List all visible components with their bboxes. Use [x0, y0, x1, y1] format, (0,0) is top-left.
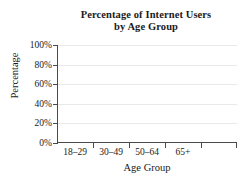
x-tick-label-65-plus: 65+ — [165, 147, 201, 158]
gridline-80 — [57, 65, 237, 66]
y-tick-label-20: 20% — [6, 118, 52, 128]
chart-title-line-1: Percentage of Internet Users — [52, 9, 240, 21]
gridline-20 — [57, 123, 237, 124]
y-tick-mark-40 — [53, 104, 58, 105]
x-tick-label-30-49: 30–49 — [93, 147, 129, 158]
y-tick-mark-80 — [53, 65, 58, 66]
y-tick-label-40: 40% — [6, 99, 52, 109]
y-tick-label-100: 100% — [6, 40, 52, 50]
x-axis-tick-labels: 18–29 30–49 50–64 65+ — [57, 147, 237, 160]
y-tick-mark-0 — [53, 143, 58, 144]
x-tick-label-18-29: 18–29 — [57, 147, 93, 158]
gridline-60 — [57, 84, 237, 85]
y-tick-label-80: 80% — [6, 60, 52, 70]
gridline-100 — [57, 45, 237, 46]
y-tick-mark-60 — [53, 84, 58, 85]
axis-frame — [57, 45, 237, 143]
y-axis-tick-labels: 100% 80% 60% 40% 20% 0% — [0, 45, 52, 143]
chart-title: Percentage of Internet Users by Age Grou… — [52, 9, 240, 32]
chart-title-line-2: by Age Group — [52, 21, 240, 33]
y-tick-label-60: 60% — [6, 79, 52, 89]
gridline-40 — [57, 104, 237, 105]
x-axis-title: Age Group — [57, 162, 237, 174]
plot-area — [57, 45, 237, 143]
y-tick-mark-100 — [53, 45, 58, 46]
chart-figure: Percentage of Internet Users by Age Grou… — [0, 0, 245, 189]
y-tick-mark-20 — [53, 123, 58, 124]
y-tick-label-0: 0% — [6, 138, 52, 148]
x-tick-label-50-64: 50–64 — [129, 147, 165, 158]
